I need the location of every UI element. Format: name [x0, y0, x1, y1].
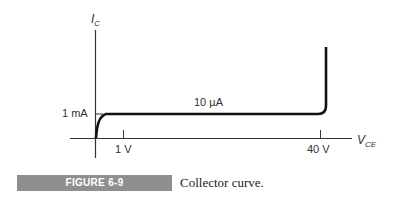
figure-caption: Collector curve.: [180, 175, 264, 191]
x-tick-label-1v: 1 V: [115, 143, 132, 155]
x-axis-label: VCE: [357, 133, 376, 147]
collector-curve: [96, 47, 326, 138]
curve-label: 10 µA: [194, 96, 223, 108]
figure-number-banner: FIGURE 6-9: [17, 175, 172, 191]
x-tick-label-40v: 40 V: [307, 143, 330, 155]
y-axis-label: IC: [91, 12, 100, 26]
y-tick-label: 1 mA: [62, 107, 88, 119]
